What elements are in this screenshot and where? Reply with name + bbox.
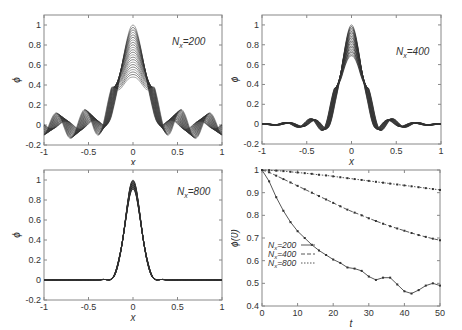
series-marker <box>375 181 377 183</box>
series-marker <box>304 172 306 174</box>
series-marker <box>396 227 398 229</box>
plot-nx200-canvas: -1-0.500.51-0.200.20.40.60.81xϕNx=200 <box>0 0 231 165</box>
series-marker <box>282 170 284 172</box>
profile-curve <box>262 49 441 130</box>
series-marker <box>418 186 420 188</box>
y-tick-label: 0.6 <box>246 60 259 70</box>
series-marker <box>354 178 356 180</box>
series-marker <box>325 254 327 256</box>
series-marker <box>382 277 384 279</box>
y-tick-label: 0 <box>36 120 41 130</box>
profile-curve <box>44 35 222 131</box>
series-marker <box>289 171 291 173</box>
series-marker <box>382 223 384 225</box>
profile-curve <box>262 25 441 129</box>
y-tick-label: 0.2 <box>246 99 259 109</box>
series-marker <box>389 225 391 227</box>
plot-nx800-canvas: -1-0.500.51-0.200.20.40.60.81xϕNx=800 <box>0 155 231 330</box>
series-marker <box>311 173 313 175</box>
series-marker <box>268 169 270 171</box>
profile-curve <box>262 52 441 130</box>
y-tick-label: 1 <box>254 165 259 175</box>
profile-curve <box>44 186 222 281</box>
series-marker <box>418 289 420 291</box>
profile-curve <box>44 45 222 133</box>
series-marker <box>346 177 348 179</box>
series-annotation: Nx=400 <box>396 46 430 59</box>
series-marker <box>289 221 291 223</box>
profile-curve <box>262 51 441 130</box>
series-marker <box>425 187 427 189</box>
series-marker <box>311 192 313 194</box>
series-marker <box>339 262 341 264</box>
series-marker <box>403 290 405 292</box>
y-tick-label: 0.2 <box>28 255 41 265</box>
x-tick-label: 10 <box>293 308 303 318</box>
profile-curve <box>44 185 222 280</box>
series-marker <box>396 184 398 186</box>
series-line <box>262 170 440 294</box>
profile-curve <box>262 56 441 131</box>
profile-curve <box>44 184 222 280</box>
x-tick-label: -0.5 <box>81 302 97 312</box>
series-marker <box>432 238 434 240</box>
series-marker <box>304 188 306 190</box>
series-marker <box>346 266 348 268</box>
series-marker <box>389 183 391 185</box>
y-tick-label: 0.6 <box>246 256 259 266</box>
series-marker <box>361 179 363 181</box>
y-axis-label: ϕ <box>11 232 22 238</box>
profile-curve <box>44 184 222 281</box>
series-marker <box>339 176 341 178</box>
y-axis-label: ϕ <box>231 76 240 82</box>
y-tick-label: 0 <box>254 119 259 129</box>
x-tick-label: 0 <box>130 302 135 312</box>
series-marker <box>304 237 306 239</box>
plot-nx400-canvas: -1-0.500.51-0.200.20.40.60.81xϕNx=400 <box>231 0 462 165</box>
series-marker <box>361 214 363 216</box>
series-marker <box>411 185 413 187</box>
series-marker <box>268 180 270 182</box>
y-tick-label: 0.8 <box>246 210 259 220</box>
series-marker <box>368 180 370 182</box>
y-tick-label: 0.8 <box>28 195 41 205</box>
plot-nx800: -1-0.500.51-0.200.20.40.60.81xϕNx=800 <box>0 155 231 330</box>
profile-curve <box>44 188 222 280</box>
series-marker <box>439 239 441 241</box>
y-axis-label: ϕ(0) <box>231 229 240 247</box>
x-axis-label: t <box>350 318 354 329</box>
profile-curve <box>44 42 222 132</box>
series-marker <box>375 279 377 281</box>
series-marker <box>389 277 391 279</box>
series-marker <box>411 293 413 295</box>
series-annotation: Nx=800 <box>177 186 211 199</box>
series-marker <box>432 282 434 284</box>
series-marker <box>354 212 356 214</box>
series-marker <box>325 174 327 176</box>
profile-curve <box>44 37 222 131</box>
series-marker <box>268 171 270 173</box>
x-tick-label: 50 <box>435 308 445 318</box>
series-marker <box>339 205 341 207</box>
series-marker <box>368 276 370 278</box>
y-tick-label: 1 <box>36 175 41 185</box>
series-marker <box>439 285 441 287</box>
series-marker <box>297 185 299 187</box>
plot-nx400: -1-0.500.51-0.200.20.40.60.81xϕNx=400 <box>231 0 462 165</box>
profile-curve <box>262 44 441 129</box>
series-marker <box>275 196 277 198</box>
x-tick-label: 20 <box>328 308 338 318</box>
y-tick-label: 0.8 <box>28 40 41 50</box>
x-tick-label: 0.5 <box>171 302 184 312</box>
profile-curve <box>262 28 441 129</box>
series-marker <box>332 175 334 177</box>
axes-frame <box>262 170 440 306</box>
plot-peak-decay: 010203040500.40.50.60.70.80.91tϕ(0)Nx=20… <box>231 155 462 330</box>
series-marker <box>425 285 427 287</box>
y-tick-label: 0.6 <box>28 215 41 225</box>
x-tick-label: 0 <box>259 308 264 318</box>
series-marker <box>439 189 441 191</box>
series-marker <box>411 232 413 234</box>
series-marker <box>403 184 405 186</box>
y-tick-label: 0.4 <box>246 301 259 311</box>
